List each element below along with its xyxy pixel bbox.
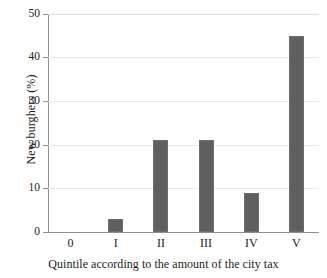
- plot-area: [48, 14, 319, 232]
- x-tick-label-IV: IV: [228, 236, 274, 250]
- x-tick-label-III: III: [183, 236, 229, 250]
- gridline-30: [48, 101, 319, 102]
- y-tick-label-50: 50: [0, 8, 40, 20]
- bar-III: [199, 140, 214, 232]
- bar-chart-figure: New burghers (%) 50 40 30 20 10 0 0IIIII…: [0, 0, 327, 278]
- x-tick-label-0: 0: [48, 236, 94, 250]
- bar-I: [108, 219, 123, 232]
- x-tick-label-V: V: [273, 236, 319, 250]
- x-tick-label-II: II: [138, 236, 184, 250]
- y-axis-title: New burghers (%): [24, 40, 39, 200]
- bar-IV: [244, 193, 259, 232]
- x-axis-line: [48, 232, 319, 233]
- y-tick-label-10: 10: [0, 182, 40, 194]
- y-tick-label-0: 0: [0, 226, 40, 238]
- bar-V: [289, 36, 304, 232]
- y-tick-label-30: 30: [0, 95, 40, 107]
- gridline-10: [48, 188, 319, 189]
- gridline-40: [48, 57, 319, 58]
- x-tick-label-I: I: [93, 236, 139, 250]
- y-tick-label-20: 20: [0, 139, 40, 151]
- y-tick-mark-0: [43, 232, 49, 233]
- bar-II: [153, 140, 168, 232]
- gridline-20: [48, 145, 319, 146]
- gridline-50: [48, 14, 319, 15]
- x-axis-title: Quintile according to the amount of the …: [0, 257, 327, 272]
- y-tick-label-40: 40: [0, 51, 40, 63]
